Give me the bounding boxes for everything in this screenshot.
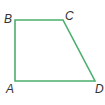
- vertex-label-c: C: [65, 9, 74, 23]
- vertex-label-d: D: [95, 82, 104, 96]
- vertex-label-b: B: [4, 12, 12, 26]
- trapezoid-diagram: B C A D: [0, 0, 105, 105]
- trapezoid-abcd: [15, 20, 95, 81]
- vertex-label-a: A: [5, 82, 14, 96]
